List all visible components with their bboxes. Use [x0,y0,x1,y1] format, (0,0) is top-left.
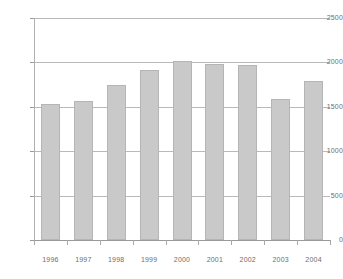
bar-2001 [205,64,224,240]
x-axis-line [34,240,330,241]
x-tick-mark-1997 [67,240,68,245]
bar-1996 [41,104,60,240]
x-tick-mark-1998 [100,240,101,245]
x-tick-label-1996: 1996 [33,256,67,264]
x-tick-mark-2000 [166,240,167,245]
x-tick-label-2004: 2004 [297,256,331,264]
x-tick-label-2002: 2002 [231,256,265,264]
x-tick-mark-1996 [34,240,35,245]
bar-1998 [107,85,126,240]
x-tick-label-1999: 1999 [132,256,166,264]
x-tick-label-1997: 1997 [66,256,100,264]
bar-series [34,18,330,240]
x-tick-label-2000: 2000 [165,256,199,264]
x-tick-mark-end [330,240,331,245]
bar-chart: 2500 2000 1500 1000 500 0 19961997199819… [0,0,343,279]
bar-2003 [271,99,290,240]
x-tick-mark-2001 [198,240,199,245]
x-tick-label-2001: 2001 [198,256,232,264]
x-tick-mark-2002 [231,240,232,245]
bar-1999 [140,70,159,240]
bar-1997 [74,101,93,240]
x-tick-mark-2004 [297,240,298,245]
x-tick-mark-2003 [264,240,265,245]
bar-2000 [173,61,192,240]
bar-2004 [304,81,323,240]
bar-2002 [238,65,257,240]
x-tick-label-1998: 1998 [99,256,133,264]
x-tick-mark-1999 [133,240,134,245]
x-tick-label-2003: 2003 [264,256,298,264]
